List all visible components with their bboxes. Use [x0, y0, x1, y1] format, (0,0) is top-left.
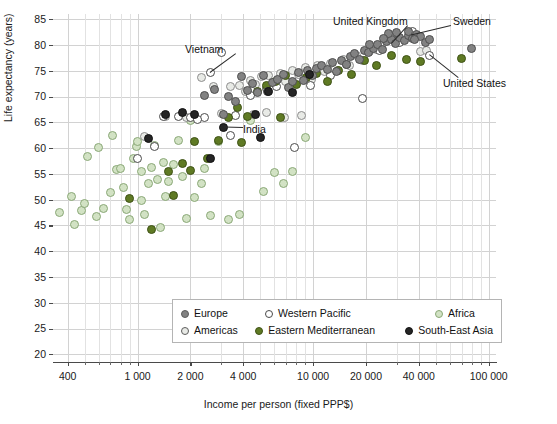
data-point	[164, 167, 173, 176]
y-tick-label: 65	[12, 117, 46, 128]
y-tick	[49, 97, 53, 98]
data-point	[80, 199, 89, 208]
data-point	[332, 67, 341, 76]
y-tick	[49, 200, 53, 201]
y-tick	[49, 71, 53, 72]
x-tick-label: 400	[28, 371, 108, 382]
y-tick	[49, 122, 53, 123]
x-tick	[138, 362, 139, 366]
y-tick-label: 55	[12, 169, 46, 180]
data-point	[259, 187, 268, 196]
data-point	[210, 85, 219, 94]
legend-item-europe[interactable]: Europe	[181, 308, 265, 319]
x-tick	[419, 362, 420, 366]
data-point	[416, 57, 425, 66]
y-tick	[49, 251, 53, 252]
annotation-leader-united-states	[429, 54, 458, 78]
legend-swatch-europe	[181, 310, 189, 318]
data-point	[264, 87, 273, 96]
data-point	[358, 94, 367, 103]
data-point	[178, 159, 187, 168]
data-point	[231, 97, 240, 106]
gridline-vertical-minor	[99, 14, 100, 362]
data-point	[125, 215, 134, 224]
y-tick-label: 80	[12, 40, 46, 51]
data-point	[55, 208, 64, 217]
data-point	[197, 73, 206, 82]
scatter-chart: Life expectancy (years) Income per perso…	[0, 0, 557, 424]
gridline-vertical-minor	[85, 14, 86, 362]
legend-row-2: Americas Eastern Mediterranean South-Eas…	[181, 322, 493, 339]
x-tick	[190, 362, 191, 366]
x-tick-label: 100 000	[449, 371, 529, 382]
y-tick-label: 25	[12, 323, 46, 334]
data-point	[161, 110, 170, 119]
legend-swatch-americas	[181, 327, 189, 335]
data-point	[347, 70, 356, 79]
data-point	[379, 34, 388, 43]
data-point	[190, 110, 199, 119]
data-point	[288, 88, 297, 97]
x-tick	[260, 362, 261, 365]
data-point	[206, 211, 215, 220]
data-point	[182, 214, 191, 223]
legend-item-eastern-mediterranean[interactable]: Eastern Mediterranean	[255, 325, 405, 336]
x-tick	[286, 362, 287, 365]
gridline-vertical-minor	[130, 14, 131, 362]
y-tick	[49, 19, 53, 20]
annotation-label-united-kingdom: United Kingdom	[333, 16, 408, 27]
x-tick	[450, 362, 451, 365]
y-tick-label: 45	[12, 220, 46, 231]
data-point	[190, 137, 199, 146]
y-tick	[49, 303, 53, 304]
data-point	[140, 210, 149, 219]
annotation-label-india: India	[243, 124, 266, 135]
data-point	[237, 72, 246, 81]
legend-item-western-pacific[interactable]: Western Pacific	[265, 308, 435, 319]
data-point	[387, 51, 396, 60]
data-point	[224, 215, 233, 224]
x-axis-title: Income per person (fixed PPP$)	[0, 398, 557, 410]
data-point	[425, 35, 434, 44]
data-point	[237, 138, 246, 147]
y-tick	[49, 329, 53, 330]
data-point	[226, 131, 235, 140]
legend: Europe Western Pacific Africa Americas E…	[172, 299, 502, 343]
x-tick	[85, 362, 86, 365]
legend-item-africa[interactable]: Africa	[435, 308, 475, 319]
x-tick	[274, 362, 275, 365]
x-tick	[366, 362, 367, 366]
data-point	[270, 168, 279, 177]
legend-label-americas: Americas	[194, 325, 238, 336]
data-point	[137, 196, 146, 205]
x-tick	[489, 362, 490, 366]
y-tick	[49, 277, 53, 278]
data-point	[372, 61, 381, 70]
legend-label-europe: Europe	[194, 308, 228, 319]
x-tick	[472, 362, 473, 365]
x-tick	[121, 362, 122, 365]
data-point	[174, 136, 183, 145]
x-tick	[397, 362, 398, 365]
data-point	[144, 179, 153, 188]
data-point	[178, 108, 187, 117]
data-point	[144, 134, 153, 143]
data-point	[108, 131, 117, 140]
y-tick	[49, 354, 53, 355]
y-tick-label: 70	[12, 91, 46, 102]
data-point	[262, 108, 271, 117]
legend-item-south-east-asia[interactable]: South-East Asia	[405, 325, 493, 336]
data-point	[305, 70, 314, 79]
data-point	[457, 54, 466, 63]
data-point	[159, 158, 168, 167]
data-point	[92, 212, 101, 221]
y-tick	[49, 148, 53, 149]
y-tick-label: 20	[12, 349, 46, 360]
x-tick	[110, 362, 111, 365]
data-point	[156, 223, 165, 232]
annotation-label-vietnam: Vietnam	[185, 44, 223, 55]
data-point	[83, 152, 92, 161]
legend-item-americas[interactable]: Americas	[181, 325, 255, 336]
data-point	[323, 77, 332, 86]
data-point	[125, 194, 134, 203]
